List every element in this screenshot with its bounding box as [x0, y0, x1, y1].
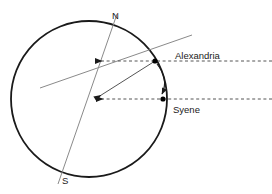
radius-to-alexandria-line: [95, 61, 155, 99]
label-south-pole: S: [62, 175, 68, 186]
earth-circle: [11, 21, 167, 177]
label-syene: Syene: [173, 104, 200, 115]
diagram-canvas: N S Alexandria Syene: [0, 0, 272, 194]
angle-arc: [157, 64, 165, 94]
city-dot-syene: [160, 96, 165, 101]
label-alexandria: Alexandria: [175, 50, 221, 61]
city-dot-alexandria: [152, 58, 157, 63]
label-north-pole: N: [112, 10, 119, 21]
eratosthenes-diagram: N S Alexandria Syene: [0, 0, 272, 194]
